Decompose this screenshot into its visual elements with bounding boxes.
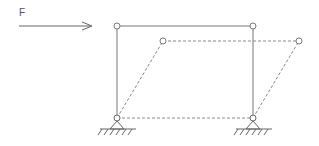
hinge-icon [160, 38, 166, 44]
force-arrow-icon [19, 22, 92, 30]
hinge-icon [250, 23, 256, 29]
deformed-left-column [117, 41, 163, 118]
hinge-icon [114, 115, 120, 121]
deformed-right-column [253, 41, 299, 118]
force-label: F [19, 7, 25, 18]
pin-support-icon [98, 115, 136, 135]
hinge-icon [114, 23, 120, 29]
original-frame [117, 26, 253, 118]
deformed-frame [117, 41, 299, 118]
hinge-icon [250, 115, 256, 121]
hinge-icon [296, 38, 302, 44]
frame-diagram: F [0, 0, 319, 146]
